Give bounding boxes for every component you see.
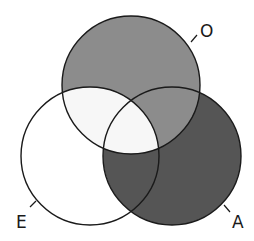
venn-diagram: O E A: [0, 0, 254, 241]
label-a: A: [232, 212, 244, 232]
label-o: O: [200, 21, 213, 41]
region-e-only: [0, 0, 254, 241]
label-e: E: [16, 212, 27, 232]
